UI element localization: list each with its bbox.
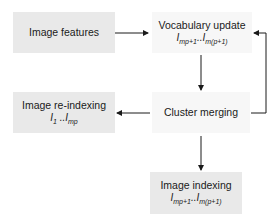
node-image-features: Image features bbox=[13, 12, 115, 53]
node-cluster-merging: Cluster merging bbox=[152, 92, 250, 133]
node-label: Vocabulary update bbox=[159, 19, 246, 32]
node-index-range: I1 ..Imp bbox=[50, 112, 78, 127]
node-image-indexing: Image indexing Imp+1..Im(p+1) bbox=[150, 172, 242, 214]
node-index-range: Imp+1..Im(p+1) bbox=[170, 192, 221, 207]
node-label: Cluster merging bbox=[164, 106, 238, 119]
node-label: Image features bbox=[29, 26, 99, 39]
node-vocabulary-update: Vocabulary update Imp+1..Im(p+1) bbox=[152, 12, 252, 53]
arrow-cluster-feedback-to-vocab bbox=[251, 33, 266, 113]
node-image-reindexing: Image re-indexing I1 ..Imp bbox=[13, 92, 115, 133]
node-label: Image indexing bbox=[160, 179, 231, 192]
node-label: Image re-indexing bbox=[22, 99, 106, 112]
node-index-range: Imp+1..Im(p+1) bbox=[176, 32, 227, 47]
